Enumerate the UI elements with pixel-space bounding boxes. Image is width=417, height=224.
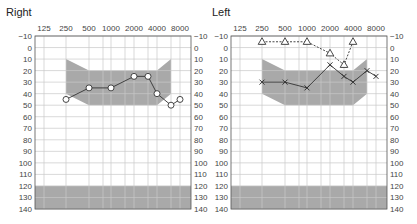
x-tick-label: 250: [59, 24, 73, 33]
y-tick-label: 60: [390, 113, 399, 122]
y-tick-label: 0: [28, 44, 33, 53]
y-tick-label: 40: [219, 90, 228, 99]
circle-marker: [108, 85, 114, 91]
left-ear-audiogram: 1252505001000200040008000−10−10001010202…: [214, 24, 404, 214]
x-tick-label: 125: [233, 24, 247, 33]
y-tick-label: 80: [194, 136, 203, 145]
y-tick-label: 140: [390, 205, 404, 214]
y-tick-label: 0: [224, 44, 229, 53]
triangle-marker: [340, 61, 348, 68]
y-tick-label: 10: [194, 55, 203, 64]
y-tick-label: 90: [23, 147, 32, 156]
y-tick-label: 140: [19, 205, 33, 214]
y-tick-label: 90: [390, 147, 399, 156]
y-tick-label: −10: [214, 32, 228, 41]
y-tick-label: 40: [390, 90, 399, 99]
circle-marker: [177, 96, 183, 102]
triangle-marker: [349, 38, 357, 45]
circle-marker: [131, 73, 137, 79]
y-tick-label: 10: [219, 55, 228, 64]
y-tick-label: 120: [194, 182, 208, 191]
right-ear-audiogram: 1252505001000200040008000−10−10001010202…: [18, 24, 208, 214]
y-tick-label: 110: [194, 170, 207, 179]
circle-marker: [86, 85, 92, 91]
y-tick-label: 20: [23, 67, 32, 76]
circle-marker: [145, 73, 151, 79]
x-tick-label: 250: [255, 24, 269, 33]
y-tick-label: −10: [390, 32, 404, 41]
x-tick-label: 4000: [148, 24, 166, 33]
y-tick-label: 70: [390, 124, 399, 133]
y-tick-label: 100: [390, 159, 404, 168]
audiogram-charts: 1252505001000200040008000−10−10001010202…: [0, 0, 417, 224]
x-tick-label: 500: [82, 24, 96, 33]
y-tick-label: 10: [390, 55, 399, 64]
triangle-marker: [303, 38, 311, 45]
x-tick-label: 1000: [298, 24, 316, 33]
y-tick-label: 20: [390, 67, 399, 76]
y-tick-label: 70: [23, 124, 32, 133]
circle-marker: [63, 96, 69, 102]
y-tick-label: 0: [194, 44, 199, 53]
y-tick-label: 80: [219, 136, 228, 145]
x-tick-label: 8000: [171, 24, 189, 33]
y-tick-label: 140: [194, 205, 208, 214]
y-tick-label: 130: [390, 193, 404, 202]
y-tick-label: 40: [23, 90, 32, 99]
y-tick-label: 100: [19, 159, 33, 168]
y-tick-label: 130: [19, 193, 33, 202]
y-tick-label: 80: [23, 136, 32, 145]
triangle-marker: [326, 49, 334, 56]
triangle-marker: [281, 38, 289, 45]
y-tick-label: 50: [390, 101, 399, 110]
y-tick-label: −10: [18, 32, 32, 41]
y-tick-label: 60: [219, 113, 228, 122]
y-tick-label: 130: [194, 193, 208, 202]
y-tick-label: 60: [23, 113, 32, 122]
y-tick-label: 80: [390, 136, 399, 145]
y-tick-label: 70: [194, 124, 203, 133]
y-tick-label: 30: [390, 78, 399, 87]
x-tick-label: 2000: [321, 24, 339, 33]
y-tick-label: 50: [219, 101, 228, 110]
y-tick-label: 120: [390, 182, 404, 191]
circle-marker: [168, 102, 174, 108]
y-tick-label: 90: [219, 147, 228, 156]
y-tick-label: 30: [194, 78, 203, 87]
y-tick-label: 140: [215, 205, 229, 214]
y-tick-label: 100: [194, 159, 208, 168]
y-tick-label: 10: [23, 55, 32, 64]
x-tick-label: 4000: [344, 24, 362, 33]
series-line: [262, 42, 353, 65]
x-tick-label: 125: [37, 24, 51, 33]
x-tick-label: 8000: [367, 24, 385, 33]
audiogram-figure: Right Left 1252505001000200040008000−10−…: [0, 0, 417, 224]
y-tick-label: 110: [215, 170, 228, 179]
y-tick-label: 60: [194, 113, 203, 122]
y-tick-label: 50: [23, 101, 32, 110]
y-tick-label: 90: [194, 147, 203, 156]
y-tick-label: 40: [194, 90, 203, 99]
circle-marker: [154, 91, 160, 97]
y-tick-label: 70: [219, 124, 228, 133]
x-tick-label: 1000: [102, 24, 120, 33]
x-tick-label: 500: [278, 24, 292, 33]
y-tick-label: 30: [219, 78, 228, 87]
y-tick-label: 0: [390, 44, 395, 53]
y-tick-label: 30: [23, 78, 32, 87]
y-tick-label: 50: [194, 101, 203, 110]
y-tick-label: 120: [215, 182, 229, 191]
y-tick-label: 100: [215, 159, 229, 168]
y-tick-label: 110: [19, 170, 32, 179]
y-tick-label: 120: [19, 182, 33, 191]
x-tick-label: 2000: [125, 24, 143, 33]
y-tick-label: 20: [219, 67, 228, 76]
triangle-marker: [258, 38, 266, 45]
y-tick-label: 130: [215, 193, 229, 202]
y-tick-label: 110: [390, 170, 403, 179]
y-tick-label: −10: [194, 32, 208, 41]
y-tick-label: 20: [194, 67, 203, 76]
